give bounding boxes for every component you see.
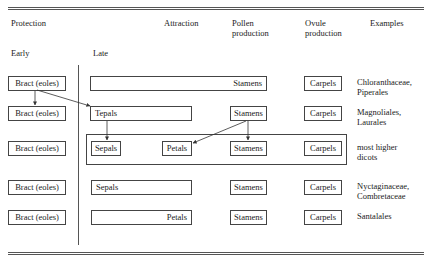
arrow-bract-to-tepals	[37, 90, 90, 106]
arrow-stamens-to-petals	[193, 121, 246, 143]
arrows-layer	[0, 0, 431, 257]
